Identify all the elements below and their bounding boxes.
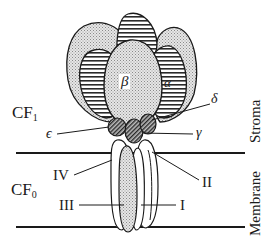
membrane-label: Membrane [247,171,264,236]
cf1-label-sub: 1 [33,112,38,123]
subunit-iii [119,146,137,232]
cf1-label: CF1 [12,104,38,123]
delta-label: δ [211,92,218,106]
gamma-label: γ [196,126,202,140]
epsilon-label: ϵ [46,127,52,141]
cf0-label-sub: 0 [32,189,37,200]
atp-synthase-diagram: β α ϵ δ γ IV II III I CF1 CF0 Stroma Mem… [0,0,271,240]
cf0-label-main: CF [11,180,32,199]
epsilon-leader [57,127,109,134]
delta-subunit [140,114,156,134]
alpha-label: α [162,76,173,89]
stroma-label: Stroma [247,100,264,143]
beta-subunit-front [104,40,162,126]
ii-leader [152,152,199,180]
cf0-label: CF0 [11,181,37,200]
i-label: I [180,198,185,213]
iv-leader [74,160,112,175]
beta-label: β [119,74,130,89]
cf1-label-main: CF [12,103,33,122]
iv-label: IV [53,168,69,183]
iii-label: III [59,198,74,213]
diagram-graphic [0,0,271,240]
epsilon-subunit [108,118,126,136]
ii-label: II [202,175,212,190]
